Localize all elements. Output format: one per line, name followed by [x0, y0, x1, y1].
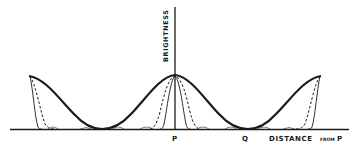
x-axis-label: DISTANCE	[269, 135, 313, 143]
x-axis-label-from: FROM	[320, 137, 335, 142]
x-axis-label-p: P	[337, 135, 342, 143]
diffraction-diagram: BRIGHTNESS P Q DISTANCE FROM P	[0, 0, 357, 152]
point-q-label: Q	[242, 135, 248, 143]
narrow-curve	[30, 76, 42, 129]
y-axis-label: BRIGHTNESS	[162, 9, 170, 62]
point-p-label: P	[172, 135, 177, 143]
narrow-curve	[308, 76, 320, 129]
